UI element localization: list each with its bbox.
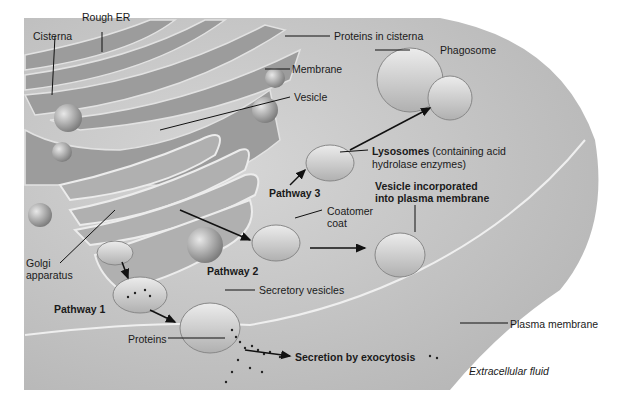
label-extracellular-fluid: Extracellular fluid [469, 365, 549, 377]
diagram-canvas [0, 0, 627, 406]
label-coatomer: Coatomer [327, 205, 373, 217]
label-lysosomes: Lysosomes (containing acid [372, 145, 506, 157]
label-vesicle-incorporated-2: into plasma membrane [375, 192, 489, 204]
label-golgi-2: apparatus [26, 269, 73, 281]
label-phagosome: Phagosome [440, 44, 496, 56]
label-cisterna: Cisterna [33, 30, 72, 42]
label-proteins-in-cisterna: Proteins in cisterna [334, 30, 423, 42]
label-vesicle-incorporated-1: Vesicle incorporated [375, 180, 478, 192]
label-proteins: Proteins [128, 333, 167, 345]
label-membrane: Membrane [292, 63, 342, 75]
label-rough-er: Rough ER [82, 11, 130, 23]
label-lysosomes-line2: hydrolase enzymes) [372, 158, 466, 170]
label-secretion: Secretion by exocytosis [295, 351, 415, 363]
label-golgi: Golgi [26, 257, 51, 269]
label-secretory-vesicles: Secretory vesicles [259, 284, 344, 296]
label-pathway-2: Pathway 2 [207, 265, 258, 277]
label-pathway-1: Pathway 1 [54, 303, 105, 315]
label-pathway-3: Pathway 3 [269, 187, 320, 199]
label-plasma-membrane: Plasma membrane [510, 318, 598, 330]
label-coatomer-2: coat [327, 217, 347, 229]
label-vesicle: Vesicle [294, 91, 327, 103]
